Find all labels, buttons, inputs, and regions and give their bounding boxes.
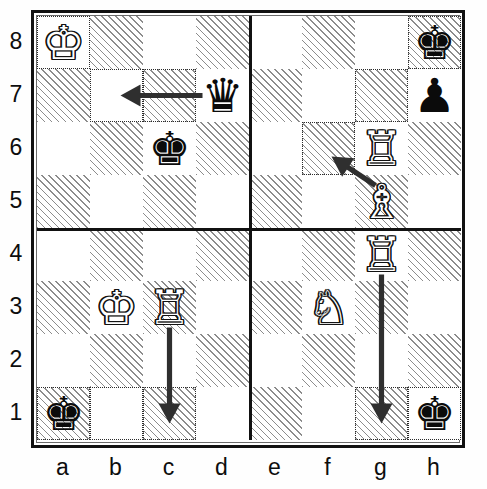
board-square-c2[interactable] [143, 334, 196, 387]
file-label-b: b [89, 456, 142, 479]
board-square-e7[interactable] [249, 69, 302, 122]
board-square-d3[interactable] [196, 281, 249, 334]
rank-label-3: 3 [4, 295, 28, 318]
board-square-f8[interactable] [302, 16, 355, 69]
board-square-g8[interactable] [355, 16, 408, 69]
board-square-d4[interactable] [196, 228, 249, 281]
chess-board: ♔♚♛♟♚♖♗♖♔♖♘♚♚ [36, 15, 460, 443]
black-king-h1[interactable]: ♚ [408, 387, 461, 440]
board-square-e1[interactable] [249, 387, 302, 440]
board-square-c5[interactable] [143, 175, 196, 228]
white-knight-f3[interactable]: ♘ [302, 281, 355, 334]
board-square-f2[interactable] [302, 334, 355, 387]
board-square-f7[interactable] [302, 69, 355, 122]
board-square-a2[interactable] [37, 334, 90, 387]
board-square-h6[interactable] [408, 122, 461, 175]
board-square-a4[interactable] [37, 228, 90, 281]
board-square-d6[interactable] [196, 122, 249, 175]
board-square-a6[interactable] [37, 122, 90, 175]
chess-board-frame: ♔♚♛♟♚♖♗♖♔♖♘♚♚ [31, 10, 465, 448]
file-label-a: a [36, 456, 89, 479]
board-square-g1[interactable] [355, 387, 408, 440]
board-square-e6[interactable] [249, 122, 302, 175]
board-square-e3[interactable] [249, 281, 302, 334]
rank-label-7: 7 [4, 83, 28, 106]
black-king-a1[interactable]: ♚ [37, 387, 90, 440]
board-square-h5[interactable] [408, 175, 461, 228]
white-rook-g6[interactable]: ♖ [355, 122, 408, 175]
board-square-b7[interactable] [90, 69, 143, 122]
file-label-f: f [301, 456, 354, 479]
board-square-e4[interactable] [249, 228, 302, 281]
board-square-b4[interactable] [90, 228, 143, 281]
board-square-c4[interactable] [143, 228, 196, 281]
board-square-a7[interactable] [37, 69, 90, 122]
chess-diagram-root: 87654321 abcdefgh ♔♚♛♟♚♖♗♖♔♖♘♚♚ [0, 0, 487, 489]
board-square-g7[interactable] [355, 69, 408, 122]
black-king-c6[interactable]: ♚ [143, 122, 196, 175]
rank-label-8: 8 [4, 30, 28, 53]
file-label-c: c [142, 456, 195, 479]
board-square-e8[interactable] [249, 16, 302, 69]
white-king-b3[interactable]: ♔ [90, 281, 143, 334]
board-square-a5[interactable] [37, 175, 90, 228]
board-square-d2[interactable] [196, 334, 249, 387]
board-square-c1[interactable] [143, 387, 196, 440]
white-rook-c3[interactable]: ♖ [143, 281, 196, 334]
board-square-c8[interactable] [143, 16, 196, 69]
board-square-f1[interactable] [302, 387, 355, 440]
board-square-e2[interactable] [249, 334, 302, 387]
board-square-b1[interactable] [90, 387, 143, 440]
white-rook-g4[interactable]: ♖ [355, 228, 408, 281]
board-square-d5[interactable] [196, 175, 249, 228]
board-square-h3[interactable] [408, 281, 461, 334]
rank-label-2: 2 [4, 348, 28, 371]
board-square-f6[interactable] [302, 122, 355, 175]
file-label-g: g [354, 456, 407, 479]
board-square-g2[interactable] [355, 334, 408, 387]
board-square-b5[interactable] [90, 175, 143, 228]
board-square-h4[interactable] [408, 228, 461, 281]
file-label-h: h [407, 456, 460, 479]
file-label-d: d [195, 456, 248, 479]
board-square-b8[interactable] [90, 16, 143, 69]
board-square-e5[interactable] [249, 175, 302, 228]
board-square-a3[interactable] [37, 281, 90, 334]
board-square-f5[interactable] [302, 175, 355, 228]
board-square-d1[interactable] [196, 387, 249, 440]
rank-label-1: 1 [4, 401, 28, 424]
board-square-f4[interactable] [302, 228, 355, 281]
board-square-b6[interactable] [90, 122, 143, 175]
white-bishop-g5[interactable]: ♗ [355, 175, 408, 228]
board-square-b2[interactable] [90, 334, 143, 387]
file-label-e: e [248, 456, 301, 479]
board-square-c7[interactable] [143, 69, 196, 122]
black-king-h8[interactable]: ♚ [408, 16, 461, 69]
board-square-d8[interactable] [196, 16, 249, 69]
board-square-g3[interactable] [355, 281, 408, 334]
white-king-a8[interactable]: ♔ [37, 16, 90, 69]
rank-label-6: 6 [4, 136, 28, 159]
rank-label-5: 5 [4, 189, 28, 212]
black-queen-d7[interactable]: ♛ [196, 69, 249, 122]
black-pawn-h7[interactable]: ♟ [408, 69, 461, 122]
board-square-h2[interactable] [408, 334, 461, 387]
rank-label-4: 4 [4, 242, 28, 265]
